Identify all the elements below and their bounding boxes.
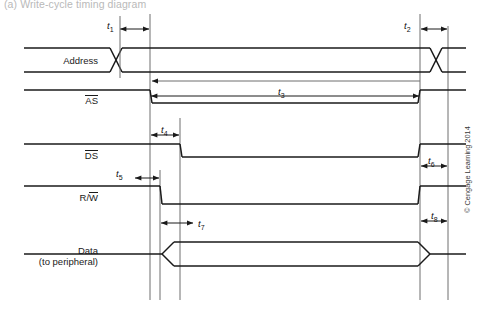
- copyright-notice: © Cengage Learning 2014: [463, 126, 472, 213]
- waveform-ds: [24, 144, 466, 157]
- waveform-address: [24, 48, 466, 72]
- timing-diagram-canvas: [0, 0, 490, 312]
- interval-arrows: [120, 16, 447, 223]
- waveform-rw: [24, 186, 466, 204]
- waveform-data: [24, 242, 466, 266]
